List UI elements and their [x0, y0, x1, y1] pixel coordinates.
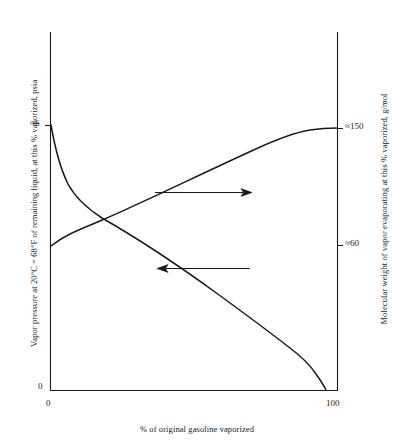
vapor-pressure-curve — [51, 125, 326, 390]
molecular-weight-curve — [51, 128, 337, 246]
bottom-axis-tick-label-100: 100 — [326, 398, 340, 408]
right-axis-tick-label-150: ≈150 — [345, 121, 363, 131]
left-axis-tick-label-0: 0 — [38, 381, 43, 391]
chart-figure: Vapor pressure at 20°C = 68°F of remaini… — [0, 0, 404, 448]
arrow-to-left-axis — [157, 265, 250, 273]
right-axis-title: Molecular weight of vapor evaporating at… — [379, 74, 389, 344]
bottom-axis-title: % of original gasoline vaporized — [97, 424, 297, 434]
left-axis-tick-label-6: ≈6 — [30, 118, 39, 128]
right-axis-tick-label-60: ≈60 — [345, 238, 359, 248]
bottom-axis-tick-label-0: 0 — [46, 398, 51, 408]
chart-plot-area — [0, 0, 404, 448]
